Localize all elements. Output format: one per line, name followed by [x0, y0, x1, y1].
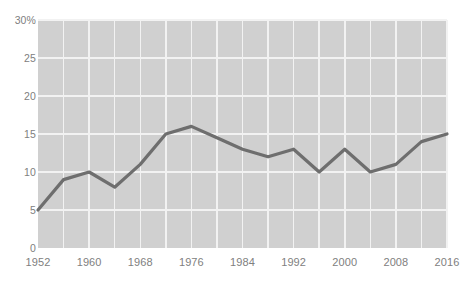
- x-axis-tick-label: 1976: [179, 257, 204, 268]
- y-axis-tick-label: 20: [2, 91, 36, 102]
- x-axis-tick-label: 2016: [435, 257, 460, 268]
- series-line: [38, 126, 447, 210]
- y-axis-tick-label: 25: [2, 53, 36, 64]
- y-axis-tick-label: 5: [2, 205, 36, 216]
- y-axis-tick-label: 10: [2, 167, 36, 178]
- x-axis-tick-label: 1960: [77, 257, 102, 268]
- y-axis-tick-label: 30%: [2, 15, 36, 26]
- x-axis-tick-label: 1952: [26, 257, 51, 268]
- x-axis-tick-label: 1984: [230, 257, 255, 268]
- plot-area: [38, 20, 447, 248]
- x-axis-tick-label: 1992: [281, 257, 306, 268]
- x-axis: 195219601968197619841992200020082016: [38, 253, 447, 273]
- x-axis-tick-label: 2008: [383, 257, 408, 268]
- series-line-layer: [38, 20, 447, 248]
- line-chart: 051015202530% 19521960196819761984199220…: [0, 0, 463, 283]
- x-axis-tick-label: 1968: [128, 257, 153, 268]
- x-axis-tick-label: 2000: [332, 257, 357, 268]
- y-axis-tick-label: 15: [2, 129, 36, 140]
- y-axis-tick-label: 0: [2, 243, 36, 254]
- y-axis: 051015202530%: [0, 0, 36, 283]
